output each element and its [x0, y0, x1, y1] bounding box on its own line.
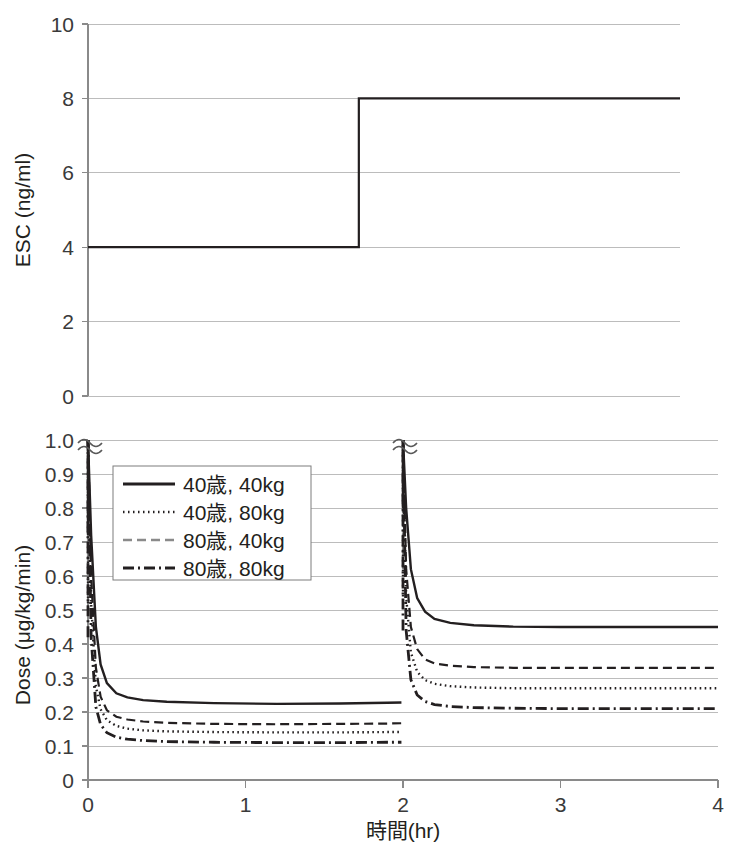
canvas-background — [0, 0, 731, 853]
top-ytick-4: 4 — [62, 236, 74, 259]
bottom-ytick-label-5: 0.5 — [45, 599, 74, 622]
bottom-ytick-label-4: 0.6 — [45, 565, 74, 588]
figure-root: 10 8 6 4 2 0 ESC (ng/ml) 1.00.90.80.70.6… — [0, 0, 731, 853]
bottom-xtick-label-2: 2 — [397, 793, 409, 816]
top-ytick-2: 2 — [62, 310, 74, 333]
top-ytick-10: 10 — [51, 13, 74, 36]
bottom-ytick-label-6: 0.4 — [45, 633, 75, 656]
bottom-origin-label: 0 — [62, 769, 74, 792]
bottom-y-axis-title: Dose (μg/kg/min) — [11, 545, 34, 705]
top-y-axis-title: ESC (ng/ml) — [11, 153, 34, 267]
top-ytick-0: 0 — [62, 385, 74, 408]
bottom-ytick-label-3: 0.7 — [45, 531, 74, 554]
bottom-ytick-label-0: 1.0 — [45, 429, 74, 452]
bottom-xtick-label-0: 0 — [82, 793, 94, 816]
dual-panel-chart: 10 8 6 4 2 0 ESC (ng/ml) 1.00.90.80.70.6… — [0, 0, 731, 853]
legend[interactable]: 40歳, 40kg 40歳, 80kg 80歳, 40kg 80歳, 80kg — [113, 466, 311, 580]
bottom-xtick-label-3: 3 — [555, 793, 567, 816]
bottom-xtick-label-1: 1 — [240, 793, 252, 816]
bottom-ytick-label-1: 0.9 — [45, 463, 74, 486]
bottom-xtick-label-4: 4 — [712, 793, 724, 816]
legend-label-0: 40歳, 40kg — [183, 473, 285, 496]
bottom-ytick-label-8: 0.2 — [45, 701, 74, 724]
top-ytick-6: 6 — [62, 161, 74, 184]
bottom-ytick-label-9: 0.1 — [45, 735, 74, 758]
bottom-x-axis-title: 時間(hr) — [366, 819, 441, 842]
bottom-ytick-label-2: 0.8 — [45, 497, 74, 520]
legend-label-3: 80歳, 80kg — [183, 557, 285, 580]
legend-label-2: 80歳, 40kg — [183, 529, 285, 552]
legend-label-1: 40歳, 80kg — [183, 501, 285, 524]
bottom-ytick-label-7: 0.3 — [45, 667, 74, 690]
top-ytick-8: 8 — [62, 87, 74, 110]
